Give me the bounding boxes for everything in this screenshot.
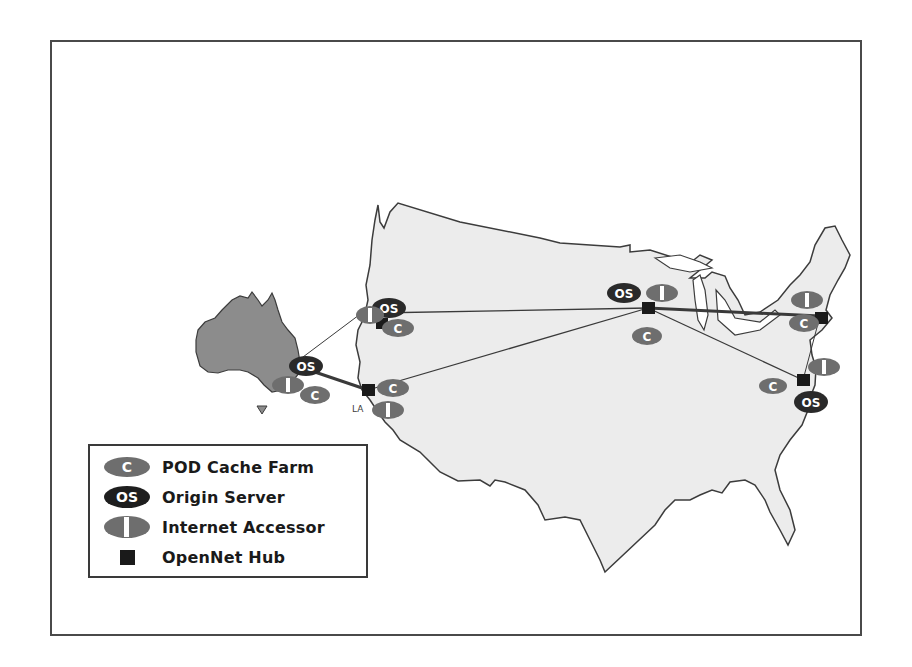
- hub-icon[interactable]: [797, 374, 810, 386]
- cache-farm-icon[interactable]: C: [300, 386, 330, 404]
- cache-label: C: [643, 330, 652, 344]
- internet-accessor-icon[interactable]: [646, 284, 678, 302]
- origin-label: OS: [615, 287, 634, 301]
- internet-accessor-icon[interactable]: [372, 401, 404, 419]
- cache-label: C: [394, 322, 403, 336]
- cache-label: C: [389, 382, 398, 396]
- cache-label: C: [769, 380, 778, 394]
- internet-accessor-icon[interactable]: [272, 376, 304, 394]
- origin-server-icon[interactable]: OS: [289, 356, 323, 376]
- cache-farm-icon[interactable]: C: [759, 378, 787, 394]
- legend-item-opennet-hub: OpenNet Hub: [102, 544, 285, 570]
- legend-item-cache-farm: C POD Cache Farm: [102, 454, 314, 480]
- origin-label: OS: [297, 360, 316, 374]
- internet-accessor-icon[interactable]: [808, 358, 840, 376]
- origin-server-icon: OS: [102, 485, 152, 509]
- origin-label: OS: [802, 396, 821, 410]
- hub-icon[interactable]: [362, 384, 375, 396]
- hub-icon[interactable]: [642, 302, 655, 314]
- legend-label: OpenNet Hub: [162, 548, 285, 567]
- cache-farm-icon: C: [102, 455, 152, 479]
- internet-accessor-icon[interactable]: [791, 291, 823, 309]
- legend-item-internet-accessor: Internet Accessor: [102, 514, 325, 540]
- internet-accessor-icon: [102, 515, 152, 539]
- legend-item-origin-server: OS Origin Server: [102, 484, 285, 510]
- legend: C POD Cache Farm OS Origin Server Intern…: [88, 444, 368, 578]
- tasmania: [257, 406, 267, 414]
- legend-label: POD Cache Farm: [162, 458, 314, 477]
- legend-label: Origin Server: [162, 488, 285, 507]
- la-label: LA: [352, 404, 364, 414]
- svg-text:C: C: [122, 459, 132, 475]
- cache-farm-icon[interactable]: C: [377, 379, 409, 397]
- cache-label: C: [311, 389, 320, 403]
- hub-icon: [102, 545, 152, 569]
- cache-farm-icon[interactable]: C: [632, 327, 662, 345]
- cache-label: C: [800, 317, 809, 331]
- cache-farm-icon[interactable]: C: [382, 319, 414, 337]
- origin-server-icon[interactable]: OS: [607, 283, 641, 303]
- internet-accessor-icon[interactable]: [356, 306, 384, 324]
- cache-farm-icon[interactable]: C: [789, 314, 819, 332]
- svg-text:OS: OS: [116, 489, 138, 505]
- origin-server-icon[interactable]: OS: [794, 391, 828, 413]
- legend-label: Internet Accessor: [162, 518, 325, 537]
